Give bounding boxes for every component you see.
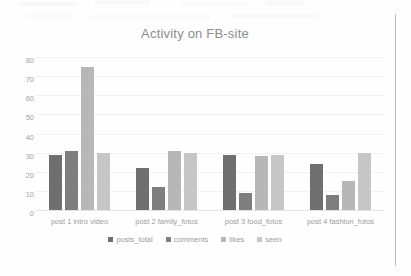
y-axis-tick-label: 70 [10, 76, 34, 84]
legend-label: likes [229, 236, 244, 244]
y-axis-tick-label: 50 [10, 114, 34, 122]
legend-item-comments[interactable]: comments [166, 236, 209, 244]
plot-area [36, 57, 384, 210]
legend-item-likes[interactable]: likes [221, 236, 244, 244]
legend-swatch-icon [108, 237, 113, 242]
scan-artifact [230, 14, 320, 18]
chart-legend: posts_totalcommentslikesseen [0, 236, 390, 244]
x-axis: post 1 intro videopost 2 family_fotospos… [36, 214, 384, 230]
bar-posts_total[interactable] [49, 155, 62, 210]
y-axis-tick-label: 60 [10, 95, 34, 103]
x-axis-category-label: post 3 food_fotos [210, 214, 297, 230]
bar-likes[interactable] [81, 67, 94, 210]
y-axis-tick-label: 80 [10, 57, 34, 65]
legend-item-seen[interactable]: seen [257, 236, 281, 244]
bar-posts_total[interactable] [310, 164, 323, 210]
scan-artifact [265, 1, 305, 5]
legend-label: posts_total [116, 236, 152, 244]
x-axis-category-label: post 4 fashion_fotos [297, 214, 384, 230]
legend-label: seen [265, 236, 281, 244]
scan-artifact [90, 15, 210, 19]
bar-posts_total[interactable] [223, 155, 236, 210]
bar-seen[interactable] [358, 153, 371, 210]
scan-artifact [95, 1, 150, 4]
bar-chart-figure: Activity on FB-site 80706050403020100 po… [0, 0, 411, 276]
scan-artifact [28, 14, 73, 18]
x-axis-category-label: post 2 family_fotos [123, 214, 210, 230]
bar-groups [36, 57, 384, 210]
bar-likes[interactable] [168, 151, 181, 210]
legend-label: comments [174, 236, 209, 244]
bar-group [297, 57, 384, 210]
y-axis-tick-label: 10 [10, 191, 34, 199]
legend-swatch-icon [257, 237, 262, 242]
y-axis-tick-label: 20 [10, 172, 34, 180]
x-axis-category-label: post 1 intro video [36, 214, 123, 230]
y-axis-tick-label: 0 [10, 210, 34, 218]
bar-comments[interactable] [239, 193, 252, 210]
scan-artifact [180, 2, 250, 5]
bar-comments[interactable] [326, 195, 339, 210]
legend-swatch-icon [221, 237, 226, 242]
bar-comments[interactable] [152, 187, 165, 210]
bar-posts_total[interactable] [136, 168, 149, 210]
x-axis-baseline [36, 210, 384, 211]
bar-group [210, 57, 297, 210]
page-border-rule [395, 14, 396, 266]
bar-group [123, 57, 210, 210]
bar-comments[interactable] [65, 151, 78, 210]
bar-likes[interactable] [255, 156, 268, 210]
chart-title: Activity on FB-site [0, 26, 390, 41]
bar-seen[interactable] [97, 153, 110, 210]
scan-artifact [18, 2, 78, 5]
legend-item-posts_total[interactable]: posts_total [108, 236, 152, 244]
bar-seen[interactable] [271, 155, 284, 210]
bar-likes[interactable] [342, 181, 355, 210]
bar-seen[interactable] [184, 153, 197, 210]
y-axis: 80706050403020100 [10, 51, 34, 216]
y-axis-tick-label: 30 [10, 153, 34, 161]
y-axis-tick-label: 40 [10, 134, 34, 142]
bar-group [36, 57, 123, 210]
legend-swatch-icon [166, 237, 171, 242]
